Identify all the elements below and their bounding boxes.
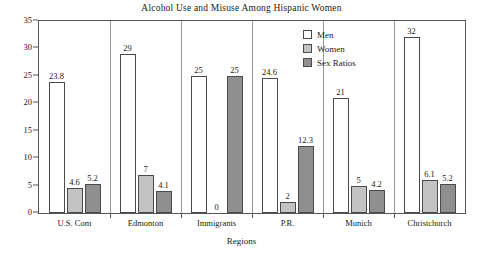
bar-value-label: 12.3 [298, 135, 313, 145]
bar-group: 25025 [181, 21, 252, 213]
x-axis-title: Regions [0, 236, 483, 246]
bar-ratio [369, 190, 385, 213]
x-axis: U.S. ComEdmontonImmigrantsP.R.MunichChri… [39, 218, 465, 232]
legend-item: Women [303, 42, 356, 55]
bar-value-label: 5.2 [442, 173, 453, 183]
y-axis-tick-label: 0 [28, 207, 32, 217]
legend-swatch-icon [303, 44, 312, 53]
bar-value-label: 5.2 [87, 173, 98, 183]
bar-men [262, 78, 278, 213]
bar-ratio [156, 191, 172, 213]
x-axis-tick-mark [323, 213, 324, 218]
bar-value-label: 7 [143, 164, 147, 174]
bar-value-label: 0 [214, 202, 218, 212]
x-axis-tick-mark [252, 213, 253, 218]
bar-men [49, 82, 65, 213]
legend-swatch-icon [303, 30, 312, 39]
bar-chart-figure: Alcohol Use and Misuse Among Hispanic Wo… [0, 0, 483, 267]
bar-ratio [440, 184, 456, 213]
bar-value-label: 4.6 [69, 177, 80, 187]
bar-women [67, 188, 83, 213]
x-axis-tick-mark [394, 213, 395, 218]
x-axis-tick-label: Munich [345, 218, 371, 228]
bar-group: 23.84.65.2 [39, 21, 110, 213]
x-axis-tick-mark [110, 213, 111, 218]
bar-value-label: 25 [194, 65, 203, 75]
bar-men [120, 54, 136, 213]
y-axis-tick-label: 25 [24, 70, 33, 80]
legend-item-label: Sex Ratios [317, 58, 356, 68]
bar-women [351, 186, 367, 213]
bar-men [333, 98, 349, 213]
bar-women [280, 202, 296, 213]
y-axis-tick-label: 10 [24, 152, 33, 162]
legend-item-label: Men [317, 30, 334, 40]
bar-value-label: 4.2 [371, 179, 382, 189]
bar-value-label: 6.1 [424, 169, 435, 179]
y-axis-tick-label: 35 [24, 15, 33, 25]
bar-value-label: 24.6 [262, 67, 277, 77]
bar-value-label: 25 [230, 65, 239, 75]
bar-group: 326.15.2 [394, 21, 465, 213]
bar-men [404, 37, 420, 213]
y-axis-tick-label: 15 [24, 125, 33, 135]
y-axis-tick-label: 20 [24, 97, 33, 107]
plot-area: 23.84.65.22974.12502524.6212.32154.2326.… [39, 21, 465, 213]
bar-ratio [85, 184, 101, 213]
bar-value-label: 4.1 [158, 180, 169, 190]
bar-value-label: 2 [285, 191, 289, 201]
x-axis-tick-label: U.S. Com [58, 218, 92, 228]
legend-swatch-icon [303, 58, 312, 67]
x-axis-tick-mark [181, 213, 182, 218]
bar-men [191, 76, 207, 213]
x-axis-tick-label: P.R. [281, 218, 295, 228]
bar-women [138, 175, 154, 213]
bar-women [422, 180, 438, 213]
bar-value-label: 5 [356, 175, 360, 185]
legend-item: Men [303, 28, 356, 41]
x-axis-tick-label: Immigrants [197, 218, 236, 228]
bar-value-label: 23.8 [49, 71, 64, 81]
x-axis-tick-label: Edmonton [128, 218, 163, 228]
chart-legend: MenWomenSex Ratios [303, 28, 356, 70]
x-axis-tick-label: Christchurch [408, 218, 452, 228]
bar-value-label: 32 [407, 26, 416, 36]
y-axis-tick-label: 30 [24, 42, 33, 52]
bar-ratio [298, 146, 314, 213]
y-axis-tick-label: 5 [28, 180, 32, 190]
bar-group: 2974.1 [110, 21, 181, 213]
chart-title: Alcohol Use and Misuse Among Hispanic Wo… [0, 3, 483, 13]
y-axis: 05101520253035 [0, 20, 38, 214]
bar-value-label: 29 [123, 43, 132, 53]
legend-item-label: Women [317, 44, 345, 54]
bar-value-label: 21 [336, 87, 345, 97]
legend-item: Sex Ratios [303, 56, 356, 69]
bar-ratio [227, 76, 243, 213]
